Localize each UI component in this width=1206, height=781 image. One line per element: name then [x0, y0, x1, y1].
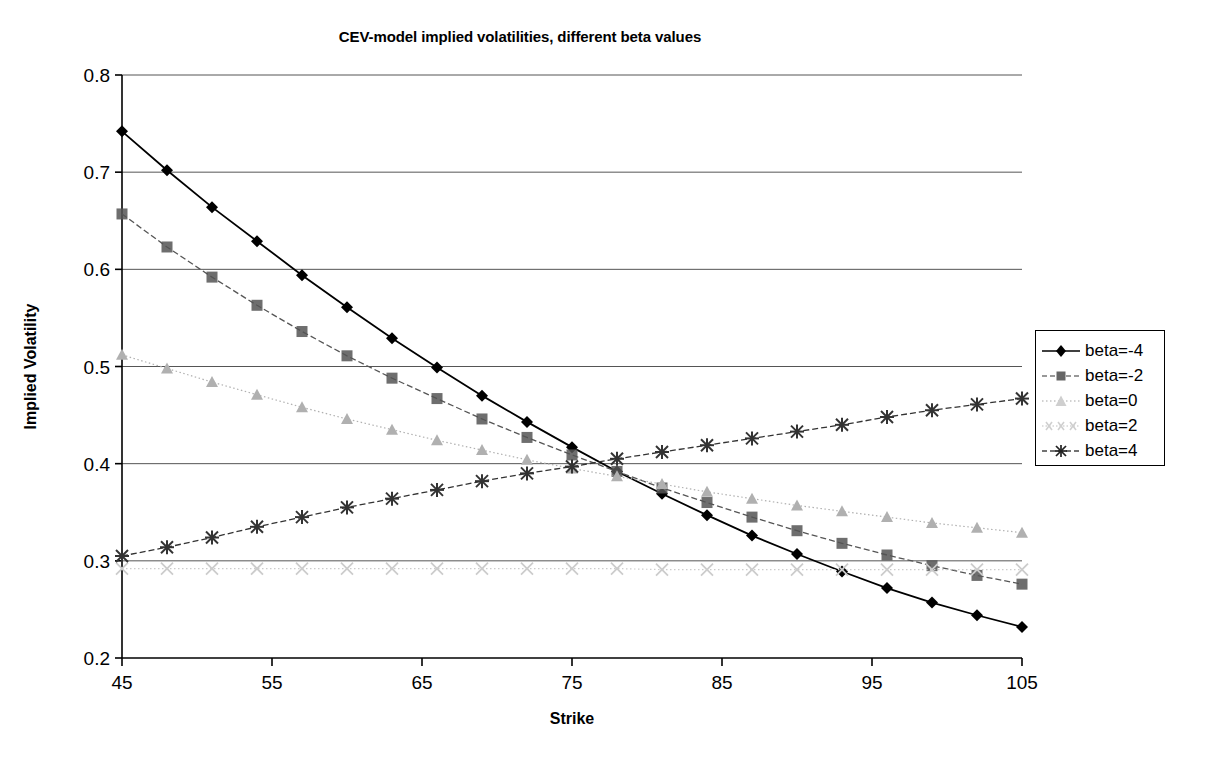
data-point-marker	[117, 208, 128, 219]
data-point-marker	[926, 597, 938, 609]
data-point-marker	[251, 563, 263, 575]
data-point-marker	[567, 449, 578, 460]
legend: beta=-4 beta=-2 beta=0	[1035, 330, 1165, 466]
series-beta-2	[116, 563, 1028, 576]
data-point-marker	[880, 410, 894, 424]
data-point-marker	[790, 425, 804, 439]
data-point-marker	[791, 548, 803, 560]
data-point-marker	[701, 509, 713, 521]
legend-item-beta-minus-4[interactable]: beta=-4	[1036, 338, 1164, 363]
data-point-marker	[520, 466, 534, 480]
legend-label: beta=-2	[1085, 366, 1143, 386]
legend-label: beta=-4	[1085, 341, 1143, 361]
data-point-marker	[160, 540, 174, 554]
x-tick-label: 95	[861, 672, 882, 693]
data-point-marker	[207, 272, 218, 283]
data-point-marker	[747, 512, 758, 523]
legend-item-beta-4[interactable]: beta=4	[1036, 438, 1164, 463]
data-point-marker	[162, 241, 173, 252]
plot-area: 0.20.30.40.50.60.70.8455565758595105Stri…	[0, 0, 1206, 781]
data-point-marker	[476, 390, 488, 402]
x-tick-label: 45	[111, 672, 132, 693]
legend-label: beta=4	[1085, 441, 1137, 461]
data-point-marker	[115, 549, 129, 563]
data-point-marker	[1016, 527, 1028, 538]
y-tick-label: 0.4	[84, 454, 111, 475]
data-point-marker	[477, 413, 488, 424]
data-point-marker	[836, 505, 848, 516]
data-point-marker	[250, 520, 264, 534]
data-point-marker	[881, 582, 893, 594]
data-point-marker	[971, 609, 983, 621]
legend-swatch-icon	[1041, 391, 1081, 411]
data-point-marker	[521, 416, 533, 428]
chart-page: CEV-model implied volatilities, differen…	[0, 0, 1206, 781]
data-point-marker	[835, 418, 849, 432]
data-point-marker	[792, 525, 803, 536]
data-point-marker	[431, 434, 443, 445]
data-point-marker	[296, 401, 308, 412]
legend-item-beta-minus-2[interactable]: beta=-2	[1036, 363, 1164, 388]
data-point-marker	[971, 522, 983, 533]
y-axis-title: Implied Volatility	[22, 303, 39, 429]
data-point-marker	[297, 326, 308, 337]
data-point-marker	[116, 349, 128, 360]
data-point-marker	[925, 403, 939, 417]
data-point-marker	[522, 432, 533, 443]
x-tick-label: 65	[411, 672, 432, 693]
data-point-marker	[610, 452, 624, 466]
legend-swatch-icon	[1041, 416, 1081, 436]
data-point-marker	[340, 500, 354, 514]
legend-item-beta-2[interactable]: beta=2	[1036, 413, 1164, 438]
data-point-marker	[206, 563, 218, 575]
data-point-marker	[611, 563, 623, 575]
data-point-marker	[386, 563, 398, 575]
data-point-marker	[881, 511, 893, 522]
x-tick-label: 55	[261, 672, 282, 693]
x-tick-label: 75	[561, 672, 582, 693]
x-tick-label: 105	[1006, 672, 1038, 693]
y-tick-label: 0.2	[84, 648, 110, 669]
data-point-marker	[700, 438, 714, 452]
data-point-marker	[430, 483, 444, 497]
data-point-marker	[295, 510, 309, 524]
data-point-marker	[206, 376, 218, 387]
data-point-marker	[385, 492, 399, 506]
data-point-marker	[341, 413, 353, 424]
legend-label: beta=2	[1085, 416, 1137, 436]
data-point-marker	[745, 431, 759, 445]
data-point-marker	[836, 566, 848, 578]
data-point-marker	[432, 393, 443, 404]
legend-item-beta-0[interactable]: beta=0	[1036, 388, 1164, 413]
series-beta-4	[115, 392, 1029, 563]
data-point-marker	[970, 397, 984, 411]
y-tick-label: 0.7	[84, 162, 110, 183]
chart-svg: 0.20.30.40.50.60.70.8455565758595105Stri…	[0, 0, 1206, 781]
data-point-marker	[837, 538, 848, 549]
data-point-marker	[205, 531, 219, 545]
data-point-marker	[746, 530, 758, 542]
data-point-marker	[252, 300, 263, 311]
legend-label: beta=0	[1085, 391, 1137, 411]
data-point-marker	[565, 460, 579, 474]
data-point-marker	[702, 497, 713, 508]
data-point-marker	[342, 350, 353, 361]
legend-swatch-icon	[1041, 366, 1081, 386]
legend-swatch-icon	[1041, 341, 1081, 361]
data-point-marker	[566, 563, 578, 575]
data-point-marker	[1015, 392, 1029, 406]
data-point-marker	[1017, 579, 1028, 590]
data-point-marker	[431, 563, 443, 575]
data-point-marker	[387, 373, 398, 384]
data-point-marker	[431, 361, 443, 373]
data-point-marker	[1016, 564, 1028, 576]
data-point-marker	[746, 564, 758, 576]
data-point-marker	[655, 445, 669, 459]
data-point-marker	[521, 454, 533, 465]
data-point-marker	[882, 550, 893, 561]
y-tick-label: 0.6	[84, 259, 110, 280]
data-point-marker	[251, 389, 263, 400]
legend-swatch-icon	[1041, 441, 1081, 461]
x-tick-label: 85	[711, 672, 732, 693]
x-axis-title: Strike	[550, 710, 595, 727]
